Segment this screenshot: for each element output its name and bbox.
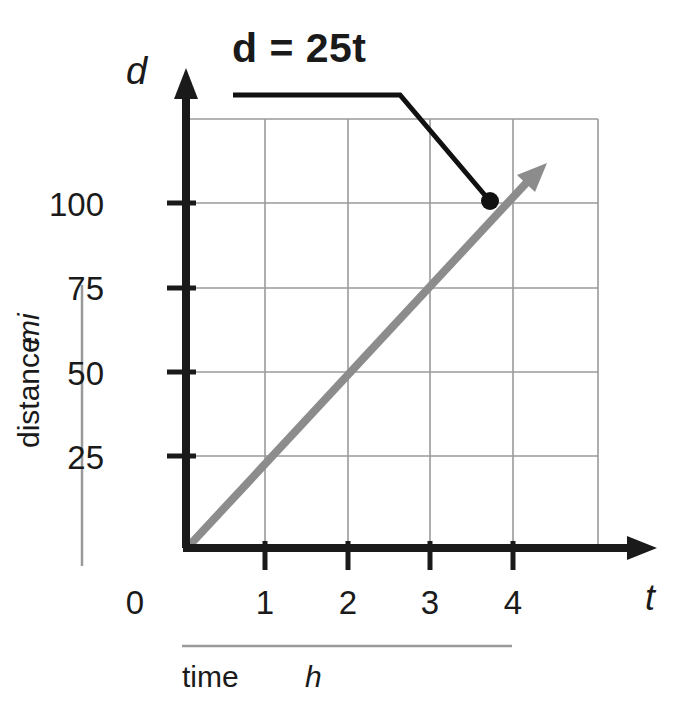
xtick-label-4: 4: [491, 586, 535, 619]
ytick-label-100: 100: [18, 188, 104, 221]
y-axis-symbol: d: [126, 52, 147, 90]
y-axis-unit: mi: [14, 313, 44, 345]
xtick-label-1: 1: [243, 586, 287, 619]
ytick-label-75: 75: [18, 272, 104, 305]
y-axis-ticks: [167, 203, 196, 456]
vertical-gridlines: [265, 119, 598, 548]
equation-label: d = 25t: [232, 28, 367, 69]
equation-callout-leader: [233, 95, 499, 210]
y-axis-name: distance: [14, 336, 44, 448]
x-axis-symbol: t: [645, 580, 655, 616]
x-axis-unit: h: [305, 662, 322, 692]
graph-figure: d = 25t d t 100 75 50 25 0 1 2 3 4 time …: [0, 0, 687, 727]
xtick-label-2: 2: [326, 586, 370, 619]
origin-label: 0: [113, 586, 157, 619]
x-axis-name: time: [182, 662, 239, 692]
callout-point-marker: [481, 192, 499, 210]
xtick-label-3: 3: [408, 586, 452, 619]
x-axis: [183, 536, 657, 560]
y-axis: [174, 68, 198, 548]
data-line-d-equals-25t: [187, 163, 547, 548]
